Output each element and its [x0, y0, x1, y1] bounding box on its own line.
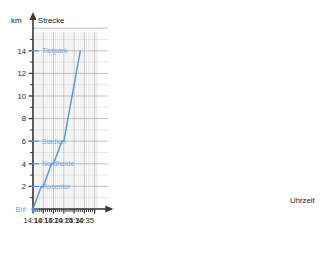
station-label: Bhf	[15, 206, 26, 213]
y-axis-name-label: Strecke	[38, 16, 64, 25]
x-axis-tick-label: 14:35	[75, 216, 94, 225]
station-label: Tierpark	[42, 47, 68, 55]
y-axis-tick-label: 12	[18, 69, 26, 78]
y-axis-unit-label: km	[11, 16, 21, 25]
chart-canvas: 2468101214 14:1014:1514:2014:2514:3014:3…	[0, 0, 335, 259]
y-axis-tick-label: 2	[22, 182, 26, 191]
station-label: Nordheide	[42, 160, 74, 167]
y-axis-tick-label: 4	[22, 160, 26, 169]
y-axis-tick-label: 14	[18, 47, 26, 56]
y-axis-tick-label: 6	[22, 137, 26, 146]
x-axis-tick-labels: 14:1014:1514:2014:2514:3014:35	[23, 216, 93, 225]
x-axis-name-label: Uhrzeit	[290, 196, 316, 205]
y-axis-tick-label: 8	[22, 114, 26, 123]
y-axis-tick-labels: 2468101214	[18, 47, 26, 192]
station-label: Rosentor	[42, 183, 71, 190]
distance-time-line-chart: 2468101214 14:1014:1514:2014:2514:3014:3…	[0, 0, 335, 259]
y-axis-tick-label: 10	[18, 92, 26, 101]
